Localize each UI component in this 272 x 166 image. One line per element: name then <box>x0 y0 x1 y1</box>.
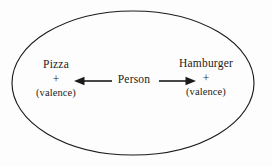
goal-left-valence-sign: + <box>6 74 106 86</box>
person-node: Person <box>106 74 162 86</box>
goal-right-valence-label: (valence) <box>156 87 256 98</box>
goal-left-valence-label: (valence) <box>6 88 106 99</box>
conflict-diagram-figure: Pizza + (valence) Person Hamburger + (va… <box>0 0 272 166</box>
goal-node-left: Pizza + (valence) <box>6 59 106 99</box>
goal-right-term: Hamburger <box>156 58 256 70</box>
goal-node-right: Hamburger + (valence) <box>156 58 256 98</box>
person-label: Person <box>106 74 162 86</box>
goal-left-term: Pizza <box>6 59 106 71</box>
goal-right-valence-sign: + <box>156 73 256 85</box>
